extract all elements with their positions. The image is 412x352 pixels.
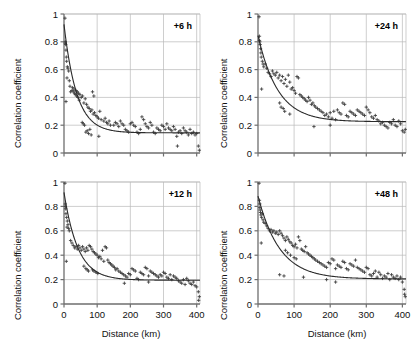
- data-point-marker: [282, 82, 285, 85]
- data-point-marker: [149, 121, 152, 124]
- data-point-marker: [82, 264, 85, 267]
- data-point-marker: [175, 135, 178, 138]
- y-tick-label: 0.6: [239, 64, 252, 75]
- data-point-marker: [65, 260, 68, 263]
- x-tick-label: 100: [89, 309, 105, 320]
- data-point-marker: [91, 90, 94, 93]
- data-point-marker: [386, 272, 389, 275]
- data-point-marker: [183, 283, 186, 286]
- y-tick-label: 1: [247, 177, 252, 188]
- plot-area-plus-12h: 00.20.40.60.810100200300400+12 h: [0, 176, 206, 352]
- data-point-marker: [140, 115, 143, 118]
- data-point-marker: [112, 124, 115, 127]
- data-point-marker: [354, 258, 357, 261]
- data-point-marker: [397, 119, 400, 122]
- data-point-marker: [66, 219, 69, 222]
- data-point-marker: [142, 118, 145, 121]
- y-tick-label: 0: [53, 148, 58, 159]
- data-point-marker: [379, 273, 382, 276]
- data-point-marker: [297, 235, 300, 238]
- data-point-marker: [366, 108, 369, 111]
- x-tick-label: 0: [255, 309, 260, 320]
- data-point-marker: [260, 241, 263, 244]
- data-point-marker: [334, 280, 337, 283]
- data-point-marker: [187, 133, 190, 136]
- fit-curve: [258, 36, 406, 122]
- data-point-marker: [68, 79, 71, 82]
- data-point-marker: [198, 295, 201, 298]
- data-point-marker: [332, 110, 335, 113]
- data-point-marker: [325, 278, 328, 281]
- y-tick-label: 0: [53, 299, 58, 310]
- y-tick-label: 0.2: [45, 120, 58, 131]
- data-point-marker: [395, 274, 398, 277]
- panel-1-content: 00.20.40.60.81+6 h: [45, 9, 201, 159]
- x-tick-label: 300: [156, 309, 172, 320]
- y-tick-label: 1: [53, 177, 58, 188]
- data-point-marker: [64, 100, 67, 103]
- data-point-marker: [328, 124, 331, 127]
- data-point-marker: [377, 271, 380, 274]
- y-axis-label-panel-3: Correlation coefficient: [12, 231, 23, 320]
- y-tick-label: 0.8: [239, 36, 252, 47]
- data-point-marker: [65, 55, 68, 58]
- data-point-marker: [182, 126, 185, 129]
- data-point-marker: [147, 280, 150, 283]
- data-point-marker: [368, 111, 371, 114]
- data-point-marker: [102, 260, 105, 263]
- data-point-marker: [298, 239, 301, 242]
- y-tick-label: 0.4: [239, 92, 252, 103]
- panel-title-label: +12 h: [169, 189, 192, 199]
- y-tick-label: 1: [53, 9, 58, 20]
- data-point-marker: [286, 251, 289, 254]
- data-point-marker: [260, 55, 263, 58]
- panel-title-label: +6 h: [174, 21, 192, 31]
- data-point-marker: [374, 269, 377, 272]
- fit-curve: [64, 24, 200, 132]
- data-point-marker: [168, 273, 171, 276]
- data-point-marker: [401, 280, 404, 283]
- data-point-marker: [65, 76, 68, 79]
- data-point-marker: [328, 111, 331, 114]
- data-point-marker: [192, 280, 195, 283]
- y-tick-label: 0: [247, 299, 252, 310]
- data-point-marker: [365, 105, 368, 108]
- panel-plus-48h: Correlation coefficient Distance (km) 00…: [206, 176, 412, 352]
- x-tick-label: 0: [61, 309, 66, 320]
- y-axis-label-panel-1: Correlation coefficient: [12, 59, 23, 148]
- data-point-marker: [404, 295, 407, 298]
- y-tick-label: 0.4: [45, 250, 58, 261]
- data-point-marker: [327, 115, 330, 118]
- data-point-marker: [282, 274, 285, 277]
- data-point-marker: [390, 273, 393, 276]
- fit-curve: [258, 196, 406, 279]
- plot-area-plus-24h: 00.20.40.60.81+24 h: [206, 0, 412, 176]
- data-point-marker: [304, 245, 307, 248]
- data-point-marker: [288, 112, 291, 115]
- data-point-marker: [278, 273, 281, 276]
- y-tick-label: 1: [247, 9, 252, 20]
- y-tick-label: 0.6: [45, 64, 58, 75]
- figure-container: Correlation coefficient 00.20.40.60.81+6…: [0, 0, 412, 352]
- data-point-marker: [372, 272, 375, 275]
- panel-2-content: 00.20.40.60.81+24 h: [239, 9, 407, 159]
- x-axis-label-panel-3: Distance (km): [56, 328, 206, 339]
- plot-area-plus-6h: 00.20.40.60.81+6 h: [0, 0, 206, 176]
- y-tick-label: 0.8: [45, 201, 58, 212]
- data-point-marker: [334, 267, 337, 270]
- data-point-marker: [287, 73, 290, 76]
- data-point-marker: [119, 119, 122, 122]
- data-point-marker: [98, 110, 101, 113]
- y-tick-label: 0.4: [239, 250, 252, 261]
- y-tick-label: 0.8: [239, 201, 252, 212]
- data-point-marker: [261, 60, 264, 63]
- data-point-marker: [170, 278, 173, 281]
- y-tick-label: 0: [247, 148, 252, 159]
- y-tick-label: 0.6: [45, 225, 58, 236]
- x-tick-label: 400: [394, 309, 410, 320]
- data-point-marker: [260, 87, 263, 90]
- data-point-marker: [197, 144, 200, 147]
- y-tick-label: 0.6: [239, 225, 252, 236]
- panel-plus-6h: Correlation coefficient 00.20.40.60.81+6…: [0, 0, 206, 176]
- data-point-marker: [163, 128, 166, 131]
